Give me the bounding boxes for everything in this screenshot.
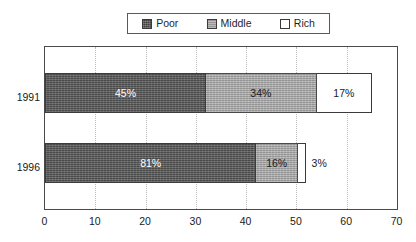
x-axis-label-10: 10 [80, 216, 110, 227]
bar-label-rich-1991: 17% [333, 88, 354, 99]
bar-segment-rich-1996[interactable]: 3% [298, 143, 306, 183]
gridline-40 [246, 47, 247, 209]
legend-item-rich[interactable]: Rich [280, 18, 315, 29]
gridline-50 [296, 47, 297, 209]
bar-row-1996[interactable]: 81% 16% 3% [45, 143, 306, 183]
x-axis-label-50: 50 [281, 216, 311, 227]
x-axis-label-20: 20 [130, 216, 160, 227]
gridline-10 [95, 47, 96, 209]
x-axis-label-30: 30 [180, 216, 210, 227]
legend-label-middle: Middle [221, 18, 252, 29]
y-axis-label-1996: 1996 [0, 162, 40, 173]
x-axis-label-60: 60 [331, 216, 361, 227]
plot-area: 45% 34% 17% 81% 16% 3% [44, 46, 398, 210]
legend-label-rich: Rich [294, 18, 315, 29]
poor-swatch-icon [142, 19, 152, 29]
bar-segment-middle-1991[interactable]: 34% [206, 73, 317, 113]
bar-label-poor-1996: 81% [140, 158, 161, 169]
bar-segment-rich-1991[interactable]: 17% [317, 73, 372, 113]
stacked-bar-chart-figure: Poor Middle Rich 1991 1996 45% [0, 0, 416, 242]
gridline-30 [196, 47, 197, 209]
bar-label-middle-1991: 34% [250, 88, 271, 99]
x-axis-label-70: 70 [382, 216, 412, 227]
gridline-20 [146, 47, 147, 209]
bar-segment-poor-1996[interactable]: 81% [45, 143, 256, 183]
bar-segment-poor-1991[interactable]: 45% [45, 73, 206, 113]
x-axis-label-40: 40 [231, 216, 261, 227]
legend-item-middle[interactable]: Middle [207, 18, 252, 29]
middle-swatch-icon [207, 19, 217, 29]
y-axis-label-1991: 1991 [0, 92, 40, 103]
gridline-60 [347, 47, 348, 209]
x-axis-label-0: 0 [30, 216, 60, 227]
legend-label-poor: Poor [156, 18, 178, 29]
legend-item-poor[interactable]: Poor [142, 18, 178, 29]
rich-swatch-icon [280, 19, 290, 29]
bar-row-1991[interactable]: 45% 34% 17% [45, 73, 372, 113]
bar-segment-middle-1996[interactable]: 16% [256, 143, 298, 183]
bar-label-middle-1996: 16% [266, 158, 287, 169]
bar-label-poor-1991: 45% [115, 88, 136, 99]
bar-label-rich-1996: 3% [312, 158, 327, 169]
plot-inner: 45% 34% 17% 81% 16% 3% [45, 47, 397, 209]
chart-legend: Poor Middle Rich [127, 13, 330, 34]
